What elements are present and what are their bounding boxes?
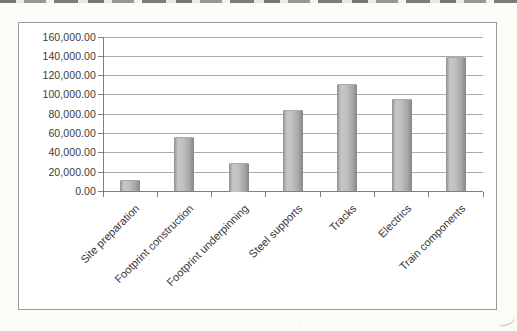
y-tick-label: 140,000.00 [28, 50, 96, 63]
y-tick-label: 120,000.00 [28, 69, 96, 82]
scan-artifact-line [0, 0, 517, 3]
x-axis-tick [374, 192, 375, 197]
chart-frame: 0.0020,000.0040,000.0060,000.0080,000.00… [18, 22, 497, 310]
bar-tracks [337, 84, 357, 191]
bar-footprint-construction [174, 137, 194, 191]
x-axis-tick [483, 192, 484, 197]
scanned-page: 0.0020,000.0040,000.0060,000.0080,000.00… [0, 0, 517, 331]
bar-site-preparation [120, 180, 140, 192]
x-axis-tick [157, 192, 158, 197]
y-tick-label: 100,000.00 [28, 88, 96, 101]
x-axis-tick [428, 192, 429, 197]
bar-steel-supports [283, 110, 303, 191]
y-tick-label: 60,000.00 [28, 127, 96, 140]
bar-footprint-underpinning [229, 163, 249, 192]
bar-train-components [446, 57, 466, 191]
y-tick-label: 80,000.00 [28, 108, 96, 121]
x-axis-line [103, 191, 483, 192]
x-axis-tick [320, 192, 321, 197]
y-tick-label: 160,000.00 [28, 31, 96, 44]
gridline [103, 37, 483, 38]
y-tick-label: 0.00 [28, 185, 96, 198]
x-axis-tick [211, 192, 212, 197]
x-axis-tick [103, 192, 104, 197]
bar-electrics [392, 99, 412, 192]
scan-smudge [495, 311, 516, 328]
y-tick-label: 40,000.00 [28, 146, 96, 159]
y-axis-line [103, 37, 104, 192]
gridline [103, 94, 483, 95]
gridline [103, 75, 483, 76]
y-tick-label: 20,000.00 [28, 166, 96, 179]
gridline [103, 56, 483, 57]
x-axis-tick [265, 192, 266, 197]
